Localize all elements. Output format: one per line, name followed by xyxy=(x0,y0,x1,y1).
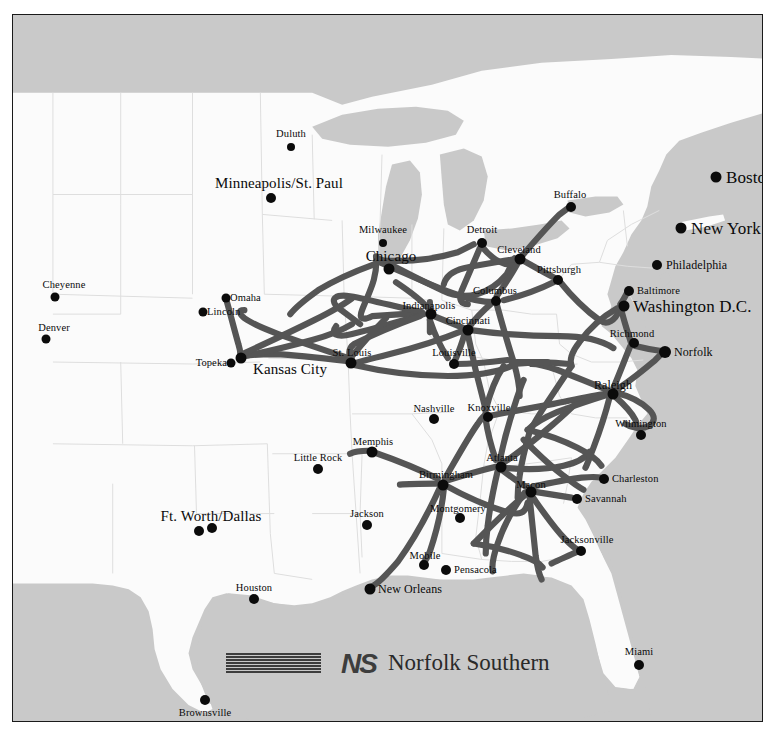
city-dot[interactable] xyxy=(619,301,630,312)
city-dot[interactable] xyxy=(419,560,429,570)
city-label: Washington D.C. xyxy=(633,298,752,315)
city-dot[interactable] xyxy=(477,238,487,248)
city-dot[interactable] xyxy=(249,594,259,604)
rail-network xyxy=(13,15,762,721)
city-label: Chicago xyxy=(366,249,417,264)
city-dot[interactable] xyxy=(227,359,236,368)
city-label: Buffalo xyxy=(554,190,587,201)
city-label: Pittsburgh xyxy=(537,265,581,276)
city-label: Detroit xyxy=(467,225,497,236)
city-dot[interactable] xyxy=(367,447,378,458)
city-label: Little Rock xyxy=(294,453,343,464)
city-label: Knoxville xyxy=(468,403,511,414)
rail-richmond-norfolk xyxy=(635,346,661,351)
logo-stripe xyxy=(226,665,321,667)
city-label: Boston xyxy=(726,169,763,186)
rail-louisville-east xyxy=(457,360,508,364)
city-dot[interactable] xyxy=(659,346,671,358)
city-label: Wilmington xyxy=(615,419,666,430)
city-dot[interactable] xyxy=(51,293,60,302)
city-label: Philadelphia xyxy=(666,259,727,271)
city-dot[interactable] xyxy=(194,526,204,536)
city-label: Memphis xyxy=(353,437,393,448)
rail-birmingham-west-stub xyxy=(400,484,436,485)
city-dot[interactable] xyxy=(379,239,387,247)
rail-columbus-south xyxy=(497,304,520,396)
city-dot[interactable] xyxy=(449,359,459,369)
city-label: Omaha xyxy=(230,293,261,304)
logo-stripe xyxy=(226,659,321,661)
city-dot[interactable] xyxy=(42,335,51,344)
city-dot[interactable] xyxy=(362,520,372,530)
city-dot[interactable] xyxy=(313,464,323,474)
rail-pittsburgh-harrisburg-dc xyxy=(560,281,620,322)
city-label: Baltimore xyxy=(637,286,680,297)
city-label: Raleigh xyxy=(594,379,632,391)
city-label: Milwaukee xyxy=(359,225,407,236)
city-label: Brownsville xyxy=(179,708,231,719)
city-dot[interactable] xyxy=(455,513,465,523)
city-dot[interactable] xyxy=(676,223,687,234)
logo-stripe xyxy=(226,656,321,658)
rail-memphis-west-stub xyxy=(350,451,368,454)
city-dot[interactable] xyxy=(652,260,662,270)
city-dot[interactable] xyxy=(384,264,395,275)
city-dot[interactable] xyxy=(441,565,451,575)
city-label: Ft. Worth/Dallas xyxy=(161,509,262,524)
city-label: Miami xyxy=(625,647,654,658)
city-dot[interactable] xyxy=(634,660,644,670)
ns-monogram: NS xyxy=(341,648,376,680)
city-label: Nashville xyxy=(413,404,454,415)
city-dot[interactable] xyxy=(266,193,276,203)
city-dot[interactable] xyxy=(624,286,634,296)
city-dot[interactable] xyxy=(200,695,210,705)
ns-speed-stripes-icon xyxy=(226,653,321,674)
city-label: Jackson xyxy=(350,509,384,520)
city-label: Mobile xyxy=(410,551,441,562)
city-label: St. Louis xyxy=(333,348,372,359)
city-label: Duluth xyxy=(276,129,306,140)
city-label: Norfolk xyxy=(674,346,713,358)
city-label: Birmingham xyxy=(419,470,473,481)
city-dot[interactable] xyxy=(491,296,501,306)
city-dot[interactable] xyxy=(711,172,722,183)
city-label: Denver xyxy=(38,323,70,334)
city-label: Columbus xyxy=(473,286,517,297)
system-map-frame: DuluthMinneapolis/St. PaulMilwaukeeChica… xyxy=(12,14,763,722)
city-dot[interactable] xyxy=(365,584,376,595)
city-dot[interactable] xyxy=(576,546,586,556)
city-dot[interactable] xyxy=(236,353,247,364)
norfolk-southern-logo: NS Norfolk Southern xyxy=(226,649,550,677)
city-label: Minneapolis/St. Paul xyxy=(215,176,343,191)
city-dot[interactable] xyxy=(438,480,449,491)
city-label: Indianapolis xyxy=(402,301,455,312)
city-label: Topeka xyxy=(196,358,227,369)
city-dot[interactable] xyxy=(629,338,639,348)
city-label: Cheyenne xyxy=(43,280,86,291)
city-dot[interactable] xyxy=(483,412,493,422)
city-dot[interactable] xyxy=(566,202,576,212)
rail-cincinnati-east xyxy=(471,330,614,348)
city-label: Houston xyxy=(236,583,272,594)
city-dot[interactable] xyxy=(346,358,357,369)
logo-stripe xyxy=(226,653,321,655)
city-label: New York xyxy=(691,220,761,237)
city-dot[interactable] xyxy=(599,474,609,484)
logo-stripe xyxy=(226,668,321,670)
rail-stlouis-east-lower xyxy=(354,365,512,376)
city-dot[interactable] xyxy=(429,414,439,424)
city-label: New Orleans xyxy=(378,583,442,595)
city-dot[interactable] xyxy=(572,494,582,504)
city-label: Atlanta xyxy=(486,453,518,464)
logo-stripe xyxy=(226,671,321,673)
rail-macon-savannah xyxy=(534,492,572,498)
city-label: Charleston xyxy=(612,474,659,485)
city-label: Savannah xyxy=(585,494,627,505)
city-label: Pensacola xyxy=(454,565,497,576)
city-dot[interactable] xyxy=(553,275,563,285)
city-dot[interactable] xyxy=(287,143,295,151)
city-dot[interactable] xyxy=(207,523,217,533)
city-dot[interactable] xyxy=(636,430,646,440)
city-label: Macon xyxy=(516,480,546,491)
city-label: Richmond xyxy=(610,329,655,340)
